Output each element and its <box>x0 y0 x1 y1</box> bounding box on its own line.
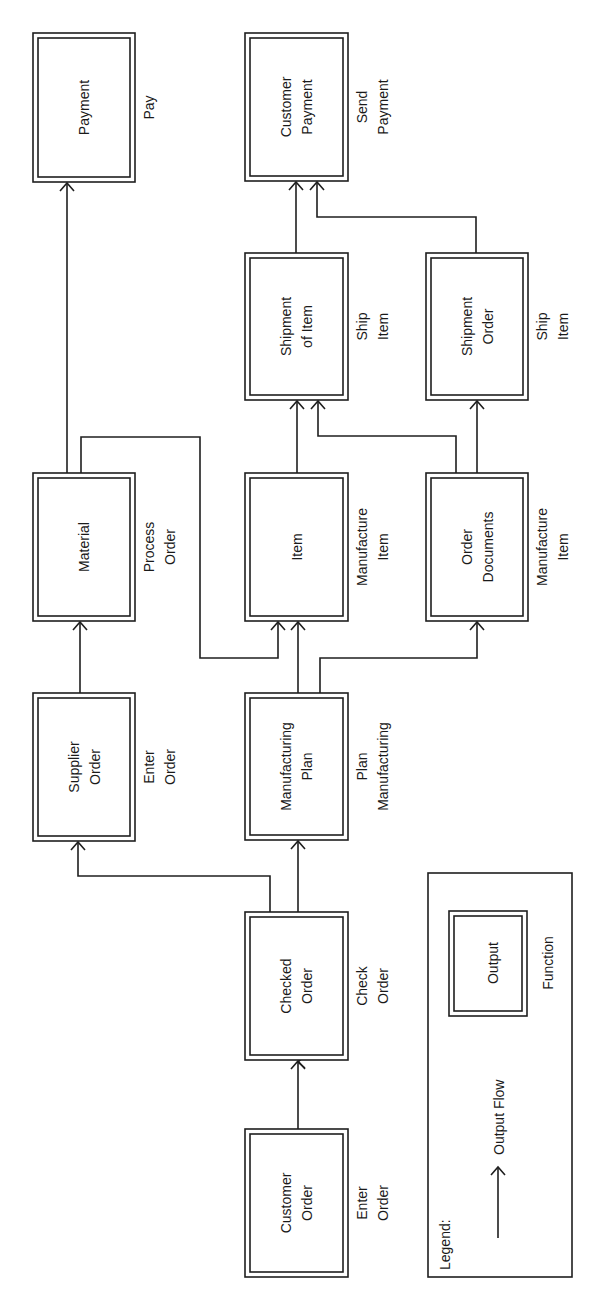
output-label: Shipment <box>278 297 294 356</box>
function-label: Ship <box>534 312 550 340</box>
node-payment: PaymentPay <box>33 33 157 182</box>
function-label: Payment <box>375 79 391 134</box>
output-label: Manufacturing <box>278 722 294 811</box>
node-checked-order: CheckedOrderCheckOrder <box>245 912 391 1060</box>
function-label: Check <box>354 965 370 1006</box>
function-label: Manufacture <box>534 508 550 586</box>
output-label: Order <box>480 308 496 344</box>
function-label: Enter <box>141 750 157 784</box>
function-label: Process <box>141 522 157 573</box>
function-label: Order <box>375 1185 391 1221</box>
flow-diagram: PaymentPayMaterialProcessOrderSupplierOr… <box>0 0 605 1304</box>
output-label: Plan <box>299 752 315 780</box>
node-material: MaterialProcessOrder <box>33 473 178 621</box>
output-label: Order <box>299 968 315 1004</box>
function-label: Enter <box>354 1186 370 1220</box>
function-label: Plan <box>354 752 370 780</box>
node-customer-order: CustomerOrderEnterOrder <box>245 1129 391 1277</box>
legend: Legend: Output Flow Output Function <box>428 873 572 1277</box>
function-label: Item <box>555 313 571 340</box>
output-box-outer <box>245 1129 348 1277</box>
output-label: Order <box>87 749 103 785</box>
output-box-outer <box>245 693 348 840</box>
function-label: Ship <box>354 312 370 340</box>
edge-order-documents-to-shipment-of-item <box>318 401 456 473</box>
function-label: Item <box>375 533 391 560</box>
output-label: Shipment <box>459 297 475 356</box>
function-label: Order <box>162 529 178 565</box>
function-label: Item <box>555 533 571 560</box>
node-shipment-order: ShipmentOrderShipItem <box>426 253 571 400</box>
edge-manufacturing-plan-to-order-documents <box>320 622 477 693</box>
output-label: Supplier <box>66 741 82 793</box>
node-order-documents: OrderDocumentsManufactureItem <box>426 473 571 621</box>
function-label: Order <box>162 749 178 785</box>
edge-checked-order-to-supplier-order <box>78 842 270 912</box>
legend-function-label: Function <box>540 936 556 990</box>
output-box-outer <box>245 33 348 181</box>
output-box-outer <box>426 473 528 621</box>
function-label: Manufacturing <box>375 722 391 811</box>
node-shipment-of-item: Shipmentof ItemShipItem <box>245 253 391 400</box>
output-box-outer <box>245 912 348 1060</box>
output-label: Material <box>76 522 92 572</box>
node-manufacturing-plan: ManufacturingPlanPlanManufacturing <box>245 693 391 840</box>
node-item: ItemManufactureItem <box>245 473 391 621</box>
node-supplier-order: SupplierOrderEnterOrder <box>33 693 178 841</box>
function-label: Item <box>375 313 391 340</box>
function-label: Manufacture <box>354 508 370 586</box>
function-label: Pay <box>141 95 157 119</box>
legend-output-label: Output <box>485 942 501 984</box>
legend-title: Legend: <box>437 1219 453 1270</box>
output-label: Item <box>289 533 305 560</box>
output-label: Checked <box>278 958 294 1013</box>
output-label: Customer <box>278 76 294 137</box>
function-label: Order <box>375 968 391 1004</box>
output-box-outer <box>426 253 528 400</box>
output-label: of Item <box>299 305 315 348</box>
output-box-outer <box>33 693 135 841</box>
output-label: Payment <box>76 80 92 135</box>
output-label: Payment <box>299 79 315 134</box>
output-box-outer <box>245 253 348 400</box>
edge-shipment-order-to-customer-payment <box>317 182 476 253</box>
output-label: Order <box>459 529 475 565</box>
output-label: Customer <box>278 1172 294 1233</box>
legend-arrow-label: Output Flow <box>491 1079 507 1155</box>
output-label: Documents <box>480 512 496 583</box>
function-label: Send <box>354 91 370 124</box>
output-label: Order <box>299 1185 315 1221</box>
node-customer-payment: CustomerPaymentSendPayment <box>245 33 391 181</box>
